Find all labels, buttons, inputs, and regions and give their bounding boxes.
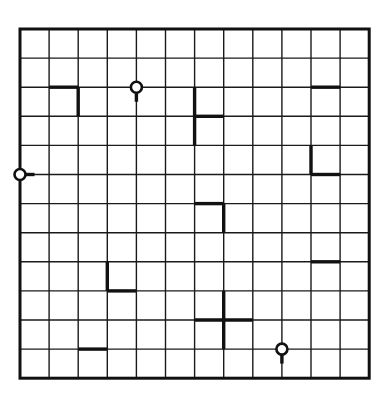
circle-node-left[interactable] bbox=[15, 169, 26, 180]
puzzle-root bbox=[0, 0, 382, 405]
circle-node-top[interactable] bbox=[131, 82, 142, 93]
canvas-background bbox=[0, 0, 382, 405]
circle-node-bottom-right[interactable] bbox=[276, 344, 287, 355]
puzzle-canvas[interactable] bbox=[0, 0, 382, 405]
